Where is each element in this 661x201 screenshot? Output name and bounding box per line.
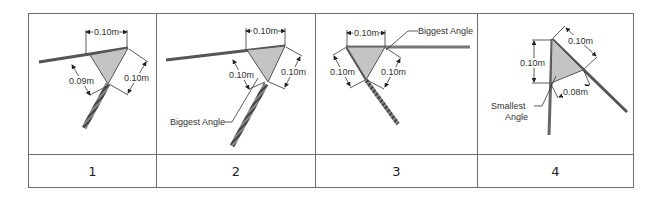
dim-top-label: 0.10m [568,36,593,46]
dim-left-label: 0.10m [520,58,545,68]
diagram-1: 0.10m 0.09m 0.10m [39,27,149,128]
callout-smallest-line1: Smallest [491,101,526,111]
diagram-2: 0.10m 0.10m 0.10m Biggest Angle [166,26,306,146]
dim-left-label: 0.09m [69,76,94,86]
dim-top-label: 0.10m [94,27,119,37]
dim-left-label: 0.10m [229,70,254,80]
diagram-3: 0.10m 0.10m 0.10m Biggest Angle [329,26,473,124]
dim-bottom-label: 0.08m [563,87,588,97]
dim-left-label: 0.10m [330,67,355,77]
dim-top-label: 0.10m [354,28,379,38]
diagrams-canvas: 0.10m 0.09m 0.10m 0.10m 0.10m 0.10m [0,0,661,201]
callout-smallest-line2: Angle [505,112,528,122]
diagram-4: 0.10m 0.10m 0.08m Smallest Angle [491,26,627,135]
dim-right-label: 0.10m [124,73,149,83]
dim-right-label: 0.10m [381,67,406,77]
dim-top-label: 0.10m [253,26,278,36]
callout-biggest-angle: Biggest Angle [170,117,225,127]
callout-biggest-angle: Biggest Angle [418,26,473,36]
dim-right-label: 0.10m [281,67,306,77]
diagonal-brace [366,80,398,124]
